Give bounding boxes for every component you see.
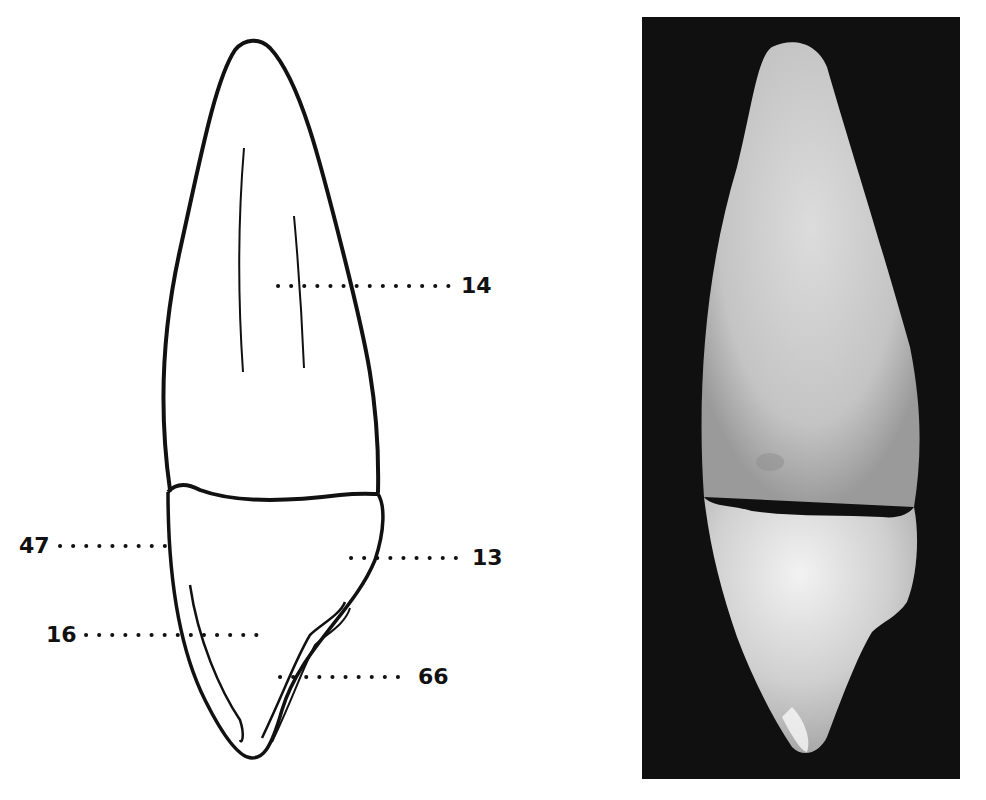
root-outline <box>163 41 378 492</box>
root-groove-1 <box>239 148 244 372</box>
label-13: 13 <box>472 547 503 569</box>
photo-crown <box>704 497 917 753</box>
label-16: 16 <box>46 624 77 646</box>
tooth-line-drawing <box>0 0 620 800</box>
photo-root <box>702 42 920 507</box>
label-47: 47 <box>19 535 50 557</box>
cej-line <box>168 485 378 500</box>
label-14: 14 <box>461 275 492 297</box>
label-66: 66 <box>418 666 449 688</box>
tooth-photograph <box>642 17 960 779</box>
crown-ridge-right-inner <box>272 608 350 742</box>
photo-stain <box>756 453 784 471</box>
crown-outline <box>168 492 383 758</box>
root-groove-2 <box>294 216 304 368</box>
